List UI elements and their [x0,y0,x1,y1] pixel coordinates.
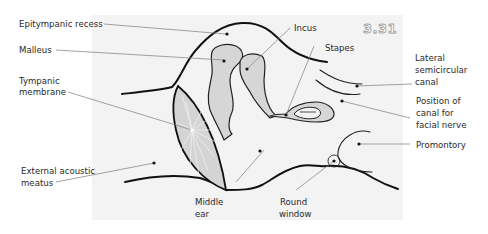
label-tympanic-membrane-line1: Tympanic [18,76,60,86]
label-middle-ear-line2: ear [195,209,210,219]
label-facial-nerve-canal-line2: canal for [416,108,454,118]
label-middle-ear-line1: Middle [195,197,223,207]
label-round-window-line1: Round [280,197,307,207]
label-tympanic-membrane-line2: membrane [19,87,66,97]
label-lateral-semicircular-canal-line3: canal [415,77,438,87]
label-promontory: Promontory [416,140,466,150]
label-external-acoustic-meatus-line2: meatus [21,178,54,188]
label-lateral-semicircular-canal-line2: semicircular [415,65,468,75]
label-stapes: Stapes [325,43,355,53]
label-epitympanic-recess: Epitympanic recess [19,19,103,29]
label-facial-nerve-canal-line1: Position of [416,96,461,106]
label-external-acoustic-meatus-line1: External acoustic [21,166,95,176]
label-lateral-semicircular-canal-line1: Lateral [415,53,445,63]
label-round-window-line2: window [279,209,312,219]
middle-ear-diagram: 3.31 [0,0,488,234]
label-facial-nerve-canal-line3: facial nerve [416,120,466,130]
label-incus: Incus [294,23,317,33]
figure-number: 3.31 [363,21,397,36]
label-malleus: Malleus [19,45,52,55]
